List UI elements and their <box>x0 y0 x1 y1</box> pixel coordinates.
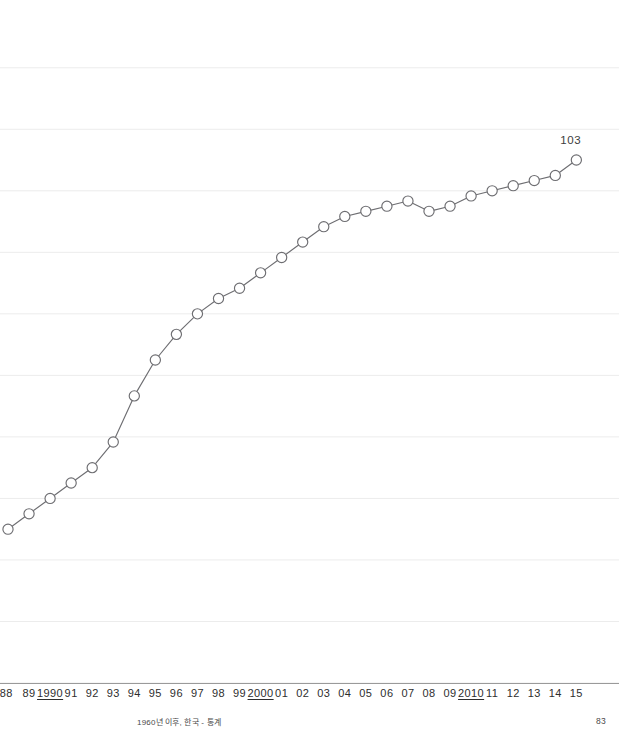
chart-svg <box>0 0 619 684</box>
data-point-marker <box>234 283 244 293</box>
value-annotation-103: 103 <box>560 134 581 146</box>
page-footer: 1960년 이후, 한국 - 통계 83 <box>0 714 619 735</box>
x-axis-tick-03: 03 <box>317 687 330 699</box>
data-point-marker <box>466 191 476 201</box>
x-axis-tick-95: 95 <box>149 687 162 699</box>
x-axis-tick-07: 07 <box>401 687 414 699</box>
x-axis-tick-06: 06 <box>380 687 393 699</box>
data-point-marker <box>150 355 160 365</box>
data-point-marker <box>508 181 518 191</box>
data-point-marker <box>129 391 139 401</box>
page-canvas: 103 888919909192939495969798992000010203… <box>0 0 619 735</box>
x-axis-tick-92: 92 <box>86 687 99 699</box>
data-point-marker <box>340 211 350 221</box>
x-axis-tick-labels: 8889199091929394959697989920000102030405… <box>0 684 619 710</box>
data-point-marker <box>487 186 497 196</box>
x-axis-tick-93: 93 <box>107 687 120 699</box>
line-chart: 103 <box>0 0 619 684</box>
footer-caption: 1960년 이후, 한국 - 통계 <box>137 716 221 727</box>
x-axis-tick-99: 99 <box>233 687 246 699</box>
x-axis-tick-2000: 2000 <box>248 687 274 699</box>
x-axis-tick-09: 09 <box>444 687 457 699</box>
x-axis-tick-05: 05 <box>359 687 372 699</box>
data-point-marker <box>403 196 413 206</box>
data-point-marker <box>529 175 539 185</box>
data-point-marker <box>87 463 97 473</box>
x-axis-tick-11: 11 <box>486 687 498 699</box>
x-axis-tick-91: 91 <box>65 687 78 699</box>
series-line <box>8 160 576 529</box>
x-axis-tick-97: 97 <box>191 687 204 699</box>
data-point-marker <box>45 493 55 503</box>
x-axis-tick-98: 98 <box>212 687 225 699</box>
data-point-marker <box>361 206 371 216</box>
data-point-marker <box>277 252 287 262</box>
data-point-marker <box>192 309 202 319</box>
data-point-marker <box>3 524 13 534</box>
x-axis-tick-89: 89 <box>23 687 36 699</box>
data-point-marker <box>24 509 34 519</box>
data-series-group <box>8 160 576 529</box>
x-axis-tick-1990: 1990 <box>37 687 63 699</box>
data-point-marker <box>424 206 434 216</box>
x-axis-tick-01: 01 <box>275 687 288 699</box>
x-axis-tick-08: 08 <box>422 687 435 699</box>
data-point-marker <box>256 268 266 278</box>
data-point-marker <box>298 237 308 247</box>
data-point-marker <box>66 478 76 488</box>
x-axis-tick-13: 13 <box>528 687 541 699</box>
x-axis-tick-04: 04 <box>338 687 351 699</box>
x-axis-tick-15: 15 <box>570 687 583 699</box>
data-point-marker <box>571 155 581 165</box>
x-axis-tick-12: 12 <box>507 687 520 699</box>
data-point-marker <box>213 293 223 303</box>
x-axis-tick-14: 14 <box>549 687 562 699</box>
gridlines-group <box>0 68 619 683</box>
x-axis-tick-88: 88 <box>0 687 13 699</box>
page-number: 83 <box>596 716 606 726</box>
data-point-marker <box>550 170 560 180</box>
x-axis-tick-94: 94 <box>128 687 141 699</box>
data-point-marker <box>445 201 455 211</box>
data-markers-group <box>3 155 582 534</box>
data-point-marker <box>171 329 181 339</box>
data-point-marker <box>382 201 392 211</box>
x-axis-tick-2010: 2010 <box>458 687 484 699</box>
x-axis-tick-02: 02 <box>296 687 309 699</box>
data-point-marker <box>319 222 329 232</box>
x-axis-tick-96: 96 <box>170 687 183 699</box>
data-point-marker <box>108 437 118 447</box>
